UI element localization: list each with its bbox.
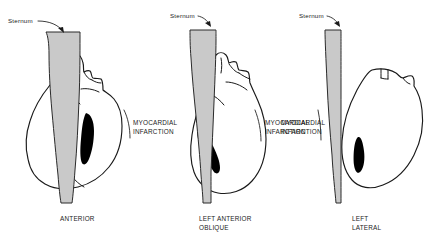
infarct-label-anterior-line1: MYOCARDIAL — [133, 119, 177, 127]
view-label-lao-line2: OBLIQUE — [199, 224, 229, 232]
sternum-arrowhead-lao — [205, 21, 211, 27]
sternum-lateral — [325, 30, 341, 203]
figure-canvas: Sternum MYOCARDIAL INFARCTION ANTERIOR S… — [0, 0, 439, 245]
sternum-arrowhead-lateral — [334, 21, 340, 27]
panel-anterior — [26, 21, 130, 203]
sternum-leader-anterior — [38, 21, 63, 31]
view-label-anterior: ANTERIOR — [60, 215, 95, 223]
panel-left-lateral — [318, 16, 423, 203]
sternum-label-anterior: Sternum — [8, 17, 33, 24]
infarct-leader-anterior — [124, 110, 130, 138]
view-label-lao-line1: LEFT ANTERIOR — [199, 215, 252, 223]
infarct-label-lateral-line1: MYOCARDIAL — [281, 119, 325, 127]
panel-left-anterior-oblique — [190, 16, 266, 203]
infarct-label-anterior-line2: INFARCTION — [133, 128, 174, 136]
sternum-label-lateral: Sternum — [299, 12, 324, 19]
view-label-lateral-line2: LATERAL — [352, 224, 381, 232]
sternum-label-lao: Sternum — [170, 12, 195, 19]
infarct-label-lateral-line2: INFARCTION — [281, 128, 322, 136]
view-label-lateral-line1: LEFT — [352, 215, 368, 223]
heart-outline-lateral — [342, 69, 423, 188]
cardiac-views-diagram — [0, 0, 439, 245]
